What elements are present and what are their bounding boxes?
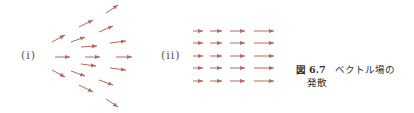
vector-arrow [79,20,93,27]
caption-line-2: 発散 [296,76,411,89]
vector-arrow [106,5,118,13]
caption-number: 6.7 [309,64,326,75]
panel-ii-label: (ii) [161,49,181,62]
vector-arrow [81,64,96,66]
panel-i-label: (i) [21,49,36,62]
vector-arrow [99,26,113,32]
caption-title: ベクトル場の [335,64,395,75]
vector-arrow [110,41,126,43]
caption-prefix: 図 [296,64,306,75]
vector-arrow [79,85,93,92]
vector-arrow [99,80,113,85]
vector-arrow [71,71,85,76]
figure-caption: 図 6.7 ベクトル場の 発散 [296,63,411,89]
panel-ii-parallel-field [193,31,274,81]
vector-arrow [52,70,65,77]
vector-arrow [110,68,126,70]
vector-arrow [52,35,65,42]
vector-field-diagram [0,0,414,113]
vector-arrow [71,37,85,42]
panel-i-diverging-field [52,5,132,107]
caption-line-1: 図 6.7 ベクトル場の [296,63,411,76]
vector-arrow [106,99,118,107]
vector-arrow [81,46,97,47]
